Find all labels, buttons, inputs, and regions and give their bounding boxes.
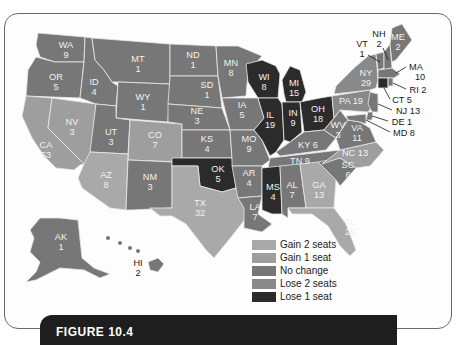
- label-NE-seats: 3: [194, 116, 199, 126]
- state-CT: [378, 78, 388, 88]
- label-OH-seats: 18: [313, 114, 323, 124]
- state-ME: [390, 24, 412, 62]
- label-IA-seats: 5: [239, 110, 244, 120]
- legend-swatch: [252, 292, 276, 302]
- label-VA: VA: [351, 123, 363, 133]
- label-WY-seats: 1: [140, 102, 145, 112]
- label-NV: NV: [66, 117, 80, 127]
- label-SD-seats: 1: [204, 90, 209, 100]
- legend-label: Gain 1 seat: [280, 251, 331, 264]
- label-TN: TN 9: [290, 156, 310, 166]
- label-CO: CO: [148, 130, 162, 140]
- label-WV-seats: 3: [335, 130, 340, 140]
- label-CO-seats: 7: [152, 140, 157, 150]
- callout-MA-seats: 10: [415, 72, 425, 82]
- label-VA-seats: 11: [352, 133, 362, 143]
- label-IA: IA: [238, 100, 248, 110]
- state-RI: [388, 78, 393, 86]
- label-UT-seats: 3: [108, 137, 113, 147]
- label-OR-seats: 5: [53, 82, 58, 92]
- label-FL-seats: 25: [345, 227, 355, 237]
- map-legend: Gain 2 seats Gain 1 seat No change Lose …: [252, 238, 337, 303]
- label-IN-seats: 9: [290, 118, 295, 128]
- label-KS: KS: [201, 134, 213, 144]
- callout-DE: DE 1: [392, 117, 412, 127]
- label-TX: TX: [194, 198, 206, 208]
- legend-item-gain1: Gain 1 seat: [252, 251, 337, 264]
- label-MT-seats: 1: [135, 64, 140, 74]
- figure-label: FIGURE 10.4: [56, 325, 134, 339]
- label-HI: HI: [133, 258, 142, 268]
- callout-NH-seats: 2: [376, 39, 381, 49]
- label-MO-seats: 9: [246, 144, 251, 154]
- label-NY-seats: 29: [361, 78, 371, 88]
- label-MI-seats: 15: [289, 88, 299, 98]
- legend-label: Gain 2 seats: [280, 238, 336, 251]
- label-NC: NC 13: [342, 148, 368, 158]
- hawaii-islands: [106, 236, 140, 253]
- state-DE: [366, 112, 373, 120]
- label-AK: AK: [55, 232, 68, 242]
- callout-VT: VT: [356, 39, 368, 49]
- label-SC: SC: [342, 160, 355, 170]
- label-NV-seats: 3: [69, 127, 74, 137]
- label-AZ-seats: 8: [103, 180, 108, 190]
- label-SC-seats: 6: [345, 170, 350, 180]
- label-KY: KY 6: [298, 140, 318, 150]
- label-LA: LA: [249, 202, 261, 212]
- label-ID-seats: 4: [91, 87, 96, 97]
- legend-item-lose2: Lose 2 seats: [252, 277, 337, 290]
- label-SD: SD: [201, 80, 214, 90]
- label-MI: MI: [289, 78, 299, 88]
- legend-label: Lose 2 seats: [280, 277, 337, 290]
- label-AZ: AZ: [100, 170, 112, 180]
- label-KS-seats: 4: [204, 144, 209, 154]
- label-OK: OK: [211, 164, 225, 174]
- legend-swatch: [252, 279, 276, 289]
- label-WI-seats: 8: [261, 82, 266, 92]
- label-WA-seats: 9: [63, 50, 68, 60]
- label-AL: AL: [286, 180, 297, 190]
- state-SD: [168, 76, 222, 108]
- label-NY: NY: [360, 68, 373, 78]
- state-AK: [26, 218, 110, 282]
- label-GA-seats: 13: [314, 190, 324, 200]
- label-IL: IL: [266, 110, 274, 120]
- callout-MD: MD 8: [393, 128, 415, 138]
- legend-item-lose1: Lose 1 seat: [252, 290, 337, 303]
- label-NE: NE: [191, 106, 204, 116]
- label-ME: ME: [391, 32, 405, 42]
- label-AR-seats: 4: [246, 178, 251, 188]
- label-AL-seats: 7: [289, 190, 294, 200]
- legend-item-nochange: No change: [252, 264, 337, 277]
- figure-caption-bar: FIGURE 10.4: [40, 315, 397, 345]
- label-CA: CA: [40, 140, 54, 150]
- label-PA: PA 19: [339, 96, 363, 106]
- label-MO: MO: [242, 134, 257, 144]
- callout-VT-seats: 1: [359, 49, 364, 59]
- state-HI: [148, 258, 164, 272]
- legend-swatch: [252, 240, 276, 250]
- label-OK-seats: 5: [215, 174, 220, 184]
- label-OR: OR: [49, 72, 63, 82]
- legend-label: Lose 1 seat: [280, 290, 332, 303]
- label-NM-seats: 3: [147, 182, 152, 192]
- label-MT: MT: [131, 54, 145, 64]
- label-WI: WI: [258, 72, 269, 82]
- legend-item-gain2: Gain 2 seats: [252, 238, 337, 251]
- label-HI-seats: 2: [135, 268, 140, 278]
- label-ND: ND: [186, 50, 200, 60]
- label-WY: WY: [136, 92, 151, 102]
- callout-NH: NH: [372, 29, 385, 39]
- label-ME-seats: 2: [395, 42, 400, 52]
- label-UT: UT: [105, 127, 118, 137]
- label-IL-seats: 19: [265, 120, 275, 130]
- callout-RI: RI 2: [410, 85, 427, 95]
- label-AK-seats: 1: [58, 242, 63, 252]
- label-NM: NM: [143, 172, 157, 182]
- legend-swatch: [252, 266, 276, 276]
- legend-swatch: [252, 253, 276, 263]
- label-TX-seats: 32: [195, 208, 205, 218]
- label-ID: ID: [89, 77, 99, 87]
